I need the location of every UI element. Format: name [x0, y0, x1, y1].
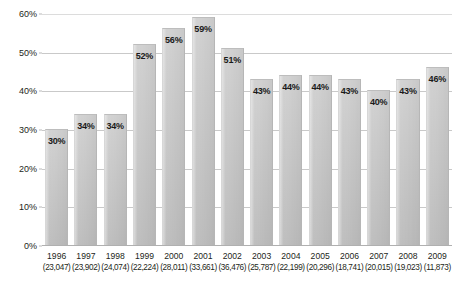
x-axis-count-label: (22,199) — [276, 262, 305, 274]
x-axis-tick: 2001(33,661) — [188, 250, 217, 274]
x-axis-year-label: 2002 — [218, 250, 247, 262]
x-axis-year-label: 2009 — [423, 250, 452, 262]
bar-slot: 44% — [276, 14, 305, 246]
bar[interactable]: 44% — [279, 75, 302, 246]
y-axis-tick-label: 40% — [19, 86, 37, 96]
x-axis-count-label: (20,296) — [306, 262, 335, 274]
x-axis-year-label: 1997 — [71, 250, 100, 262]
y-axis-tick-label: 30% — [19, 125, 37, 135]
x-axis-count-label: (19,023) — [393, 262, 422, 274]
bar-value-label: 34% — [77, 121, 94, 131]
bar[interactable]: 46% — [426, 67, 449, 246]
bar-value-label: 44% — [282, 82, 299, 92]
x-axis-count-label: (23,902) — [71, 262, 100, 274]
x-axis-year-label: 1999 — [130, 250, 159, 262]
x-axis-tick: 2002(36,476) — [218, 250, 247, 274]
bar[interactable]: 52% — [133, 44, 156, 246]
y-axis-tick-label: 20% — [19, 164, 37, 174]
x-axis-tick: 2008(19,023) — [393, 250, 422, 274]
chart-title-cropped — [28, 0, 328, 3]
x-axis-count-label: (25,787) — [247, 262, 276, 274]
x-axis-count-label: (20,015) — [364, 262, 393, 274]
bar-slot: 46% — [423, 14, 452, 246]
bar-value-label: 44% — [311, 82, 328, 92]
bar-slot: 34% — [71, 14, 100, 246]
y-axis-tick-label: 60% — [19, 9, 37, 19]
x-axis-year-label: 2005 — [306, 250, 335, 262]
bar-slot: 40% — [364, 14, 393, 246]
x-axis-tick: 1996(23,047) — [42, 250, 71, 274]
bar-slot: 43% — [393, 14, 422, 246]
bar-series: 30%34%34%52%56%59%51%43%44%44%43%40%43%4… — [42, 14, 452, 246]
x-axis-tick: 2007(20,015) — [364, 250, 393, 274]
bar[interactable]: 43% — [338, 79, 361, 246]
y-axis-tick-label: 0% — [24, 241, 37, 251]
x-axis-year-label: 1998 — [101, 250, 130, 262]
bar-value-label: 34% — [106, 121, 123, 131]
bar-slot: 44% — [306, 14, 335, 246]
y-axis-tick-label: 10% — [19, 202, 37, 212]
bar-value-label: 59% — [194, 24, 211, 34]
x-axis-count-label: (28,011) — [159, 262, 188, 274]
y-axis-tick-label: 50% — [19, 48, 37, 58]
x-axis-tick: 2003(25,787) — [247, 250, 276, 274]
x-axis-tick: 2004(22,199) — [276, 250, 305, 274]
bar-slot: 34% — [101, 14, 130, 246]
bar[interactable]: 34% — [74, 114, 97, 246]
x-axis-count-label: (22,224) — [130, 262, 159, 274]
x-axis-year-label: 2001 — [188, 250, 217, 262]
bar-value-label: 56% — [165, 35, 182, 45]
x-axis-tick: 2006(18,741) — [335, 250, 364, 274]
x-axis-tick: 1999(22,224) — [130, 250, 159, 274]
x-axis-count-label: (24,074) — [101, 262, 130, 274]
bar[interactable]: 44% — [309, 75, 332, 246]
bar-slot: 43% — [247, 14, 276, 246]
x-axis-year-label: 2003 — [247, 250, 276, 262]
x-axis-year-label: 2007 — [364, 250, 393, 262]
bar-value-label: 30% — [48, 136, 65, 146]
x-axis-count-label: (11,873) — [423, 262, 452, 274]
bar-chart: 0%10%20%30%40%50%60% 30%34%34%52%56%59%5… — [0, 0, 455, 286]
x-axis-year-label: 2008 — [393, 250, 422, 262]
bar-slot: 52% — [130, 14, 159, 246]
x-axis-tick: 1998(24,074) — [101, 250, 130, 274]
x-axis-tick: 1997(23,902) — [71, 250, 100, 274]
x-axis-labels: 1996(23,047)1997(23,902)1998(24,074)1999… — [42, 250, 452, 274]
bar[interactable]: 51% — [221, 48, 244, 246]
x-axis-year-label: 2006 — [335, 250, 364, 262]
x-axis-year-label: 2004 — [276, 250, 305, 262]
bar-value-label: 46% — [429, 74, 446, 84]
bar[interactable]: 43% — [396, 79, 419, 246]
x-axis-year-label: 2000 — [159, 250, 188, 262]
plot-area: 0%10%20%30%40%50%60% 30%34%34%52%56%59%5… — [42, 14, 452, 246]
bar[interactable]: 43% — [250, 79, 273, 246]
bar[interactable]: 56% — [162, 28, 185, 246]
x-axis-count-label: (18,741) — [335, 262, 364, 274]
bar-value-label: 52% — [136, 51, 153, 61]
bar-slot: 43% — [335, 14, 364, 246]
bar-slot: 30% — [42, 14, 71, 246]
bar-value-label: 43% — [253, 86, 270, 96]
bar-value-label: 51% — [224, 55, 241, 65]
bar-slot: 59% — [188, 14, 217, 246]
bar-slot: 51% — [218, 14, 247, 246]
bar-value-label: 43% — [399, 86, 416, 96]
bar[interactable]: 30% — [45, 129, 68, 246]
x-axis-count-label: (36,476) — [218, 262, 247, 274]
axis-baseline — [42, 245, 452, 246]
x-axis-count-label: (33,661) — [188, 262, 217, 274]
x-axis-year-label: 1996 — [42, 250, 71, 262]
x-axis-tick: 2009(11,873) — [423, 250, 452, 274]
bar-slot: 56% — [159, 14, 188, 246]
bar[interactable]: 34% — [104, 114, 127, 246]
x-axis-tick: 2000(28,011) — [159, 250, 188, 274]
bar-value-label: 43% — [341, 86, 358, 96]
bar-value-label: 40% — [370, 97, 387, 107]
x-axis-tick: 2005(20,296) — [306, 250, 335, 274]
bar[interactable]: 40% — [367, 90, 390, 246]
bar[interactable]: 59% — [192, 17, 215, 246]
x-axis-count-label: (23,047) — [42, 262, 71, 274]
